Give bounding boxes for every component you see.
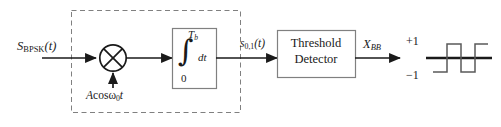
bpsk-demodulator-diagram: SBPSK(t) Acosω0t ∫ Tb 0 dt s0,1(t) Thres… bbox=[0, 0, 501, 127]
input-signal-subscript: BPSK bbox=[23, 44, 44, 54]
waveform-minus-one-label: −1 bbox=[406, 69, 419, 81]
threshold-detector-line2: Detector bbox=[277, 52, 355, 68]
lo-time: t bbox=[120, 89, 123, 101]
output-signal-subscript: BB bbox=[371, 42, 381, 52]
mid-signal-subscript: 0,1 bbox=[244, 42, 254, 51]
diagram-canvas bbox=[0, 0, 501, 127]
local-oscillator-label: Acosω0t bbox=[86, 90, 123, 103]
threshold-detector-label: Threshold Detector bbox=[277, 36, 355, 67]
mid-signal-label: s0,1(t) bbox=[240, 38, 265, 51]
integral-lower-limit: 0 bbox=[181, 73, 187, 84]
threshold-detector-line1: Threshold bbox=[277, 36, 355, 52]
output-signal-label: XBB bbox=[363, 38, 381, 52]
lo-function: cos bbox=[93, 89, 108, 101]
input-signal-arg: (t) bbox=[45, 39, 57, 53]
integral-upper-limit: Tb bbox=[188, 29, 198, 42]
lo-omega: ω bbox=[108, 89, 116, 101]
lo-amplitude: A bbox=[86, 89, 93, 101]
output-signal-symbol: X bbox=[363, 37, 371, 51]
waveform-plus-one-label: +1 bbox=[406, 35, 419, 47]
integral-upper-subscript: b bbox=[194, 33, 198, 42]
input-signal-label: SBPSK(t) bbox=[17, 40, 56, 54]
integral-differential: dt bbox=[198, 52, 207, 63]
mid-signal-arg: (t) bbox=[254, 37, 265, 49]
